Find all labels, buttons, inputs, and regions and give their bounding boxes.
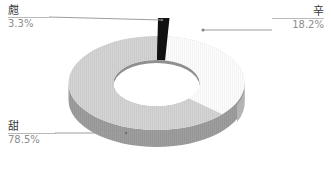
slice-label-spicy: 辛 18.2%	[272, 6, 324, 31]
slice-label-sweet-name: 甜	[8, 121, 56, 133]
slice-label-salty: 甝 3.3%	[8, 5, 50, 30]
slice-label-salty-name: 甝	[8, 5, 50, 17]
leader-dot-sweet	[125, 132, 128, 135]
leader-line-salty	[49, 17, 162, 20]
leader-dot-salty	[161, 19, 164, 22]
slice-label-sweet: 甜 78.5%	[8, 121, 56, 146]
slice-label-salty-percent: 3.3%	[8, 18, 50, 30]
donut-chart: 甝 3.3% 甜 78.5% 辛 18.2%	[0, 0, 331, 169]
slice-label-spicy-name: 辛	[272, 6, 324, 18]
slice-label-sweet-percent: 78.5%	[8, 134, 56, 146]
slice-label-spicy-percent: 18.2%	[272, 19, 324, 31]
leader-dot-spicy	[201, 28, 204, 31]
